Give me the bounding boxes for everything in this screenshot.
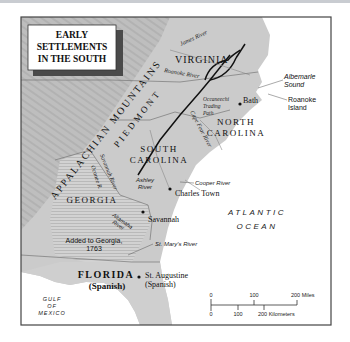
albemarle-label-1: Albemarle [283, 73, 316, 80]
scale-miles-100: 100 [249, 292, 258, 298]
title-line-2: SETTLEMENTS [37, 42, 108, 52]
scale-km-100: 100 [233, 311, 242, 317]
settlement-dot [238, 102, 241, 105]
gulf-label-3: MEXICO [38, 310, 66, 316]
added-to-georgia-label-1: Added to Georgia, [66, 237, 123, 245]
scale-miles-200: 200 Miles [291, 292, 315, 298]
florida-sub-label: (Spanish) [89, 281, 126, 291]
occaneechi-label-3: Path [202, 110, 214, 116]
scale-miles-0: 0 [209, 292, 212, 298]
added-to-georgia-label-2: 1763 [86, 245, 102, 252]
south-carolina-label-2: CAROLINA [130, 155, 189, 165]
gulf-label-2: OF [47, 303, 57, 309]
settlement-label: Savannah [148, 215, 179, 224]
albemarle-label-2: Sound [284, 81, 305, 88]
settlement-label: Bath [243, 96, 258, 105]
title-line-3: IN THE SOUTH [38, 54, 107, 64]
georgia-label: GEORGIA [67, 195, 118, 205]
roanoke-island-label-2: Island [288, 104, 307, 111]
title-box: EARLY SETTLEMENTS IN THE SOUTH [28, 25, 123, 76]
virginia-label: VIRGINIA [175, 54, 229, 65]
map: EARLY SETTLEMENTS IN THE SOUTH APPALACHI… [0, 0, 350, 342]
gulf-label-1: GULF [43, 296, 62, 302]
north-carolina-label-2: CAROLINA [207, 128, 266, 138]
florida-label: FLORIDA [78, 269, 135, 280]
south-carolina-label-1: SOUTH [140, 144, 178, 154]
settlement-dot [141, 210, 144, 213]
settlement-dot [137, 275, 140, 278]
roanoke-island-label-1: Roanoke [288, 96, 316, 103]
ashley-river-label-1: Ashley [135, 177, 155, 183]
scale-km-0: 0 [209, 311, 212, 317]
settlement-label: Charles Town [175, 189, 219, 198]
settlement-dot [168, 187, 171, 190]
settlement-label: St. Augustine [145, 271, 189, 280]
occaneechi-label-2: Trading [203, 103, 221, 109]
st-marys-river-label: St. Mary's River [155, 241, 198, 247]
settlement-sub-label: (Spanish) [145, 280, 176, 289]
ashley-river-label-2: River [138, 184, 153, 190]
atlantic-label-2: OCEAN [237, 222, 278, 231]
atlantic-label-1: ATLANTIC [227, 208, 286, 217]
settlement-charles-town: Charles Town [168, 187, 219, 198]
occaneechi-label-1: Occaneechi [203, 96, 229, 102]
north-carolina-label-1: NORTH [217, 117, 255, 127]
scale-km-200: 200 Kilometers [258, 311, 295, 317]
cooper-river-label: Cooper River [195, 180, 231, 186]
title-line-1: EARLY [56, 30, 89, 40]
